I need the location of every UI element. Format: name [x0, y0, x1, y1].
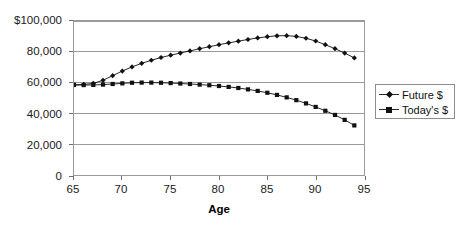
x-tick-label-65: 65: [58, 183, 88, 195]
x-tick-mark: [219, 176, 220, 180]
x-tick-label-70: 70: [106, 183, 136, 195]
x-tick-mark: [170, 176, 171, 180]
y-tick-label-60000: 60,000: [0, 76, 62, 88]
legend-marker-square-icon: [379, 104, 399, 115]
x-tick-mark: [73, 176, 74, 180]
x-tick-label-90: 90: [300, 183, 330, 195]
legend-item-future: Future $: [379, 87, 451, 102]
y-tick-mark: [69, 113, 73, 114]
x-tick-mark: [365, 176, 366, 180]
chart-legend: Future $ Today's $: [375, 84, 455, 119]
y-tick-label-40000: 40,000: [0, 108, 62, 120]
legend-marker-diamond-icon: [379, 89, 399, 100]
y-tick-mark: [69, 20, 73, 21]
x-tick-label-75: 75: [155, 183, 185, 195]
y-tick-mark: [69, 82, 73, 83]
y-tick-mark: [69, 144, 73, 145]
x-tick-mark: [267, 176, 268, 180]
y-tick-mark: [69, 51, 73, 52]
plot-area: [73, 20, 365, 176]
y-tick-label-20000: 20,000: [0, 139, 62, 151]
plot-canvas: [74, 21, 364, 175]
legend-label-todays: Today's $: [399, 104, 448, 116]
x-tick-label-85: 85: [252, 183, 282, 195]
legend-label-future: Future $: [399, 89, 443, 101]
legend-item-todays: Today's $: [379, 102, 451, 117]
y-tick-label-100000: $100,000: [0, 14, 62, 26]
y-tick-label-0: 0: [0, 170, 62, 182]
chart-figure: $100,000 80,000 60,000 40,000 20,000 0 6…: [0, 0, 472, 231]
x-tick-mark: [316, 176, 317, 180]
y-tick-label-80000: 80,000: [0, 45, 62, 57]
x-tick-label-80: 80: [203, 183, 233, 195]
x-tick-mark: [121, 176, 122, 180]
x-tick-label-95: 95: [349, 183, 379, 195]
x-axis-title: Age: [169, 203, 269, 215]
